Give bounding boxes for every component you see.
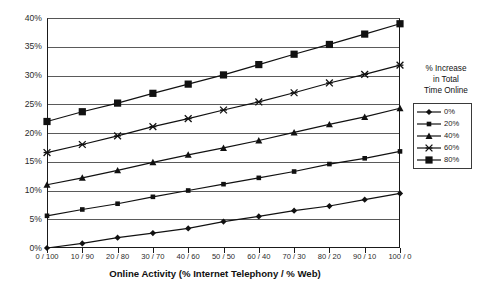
plot-frame (47, 18, 400, 248)
legend-label: 20% (442, 118, 459, 130)
legend-title-line: % Increase (409, 63, 483, 74)
legend-label: 80% (442, 154, 459, 166)
legend-entries: 0%20%40%60%80% (413, 103, 472, 169)
legend-swatch-square-large-icon (416, 154, 442, 166)
y-axis-tick-label: 35% (2, 42, 42, 51)
legend-item-60pct[interactable]: 60% (416, 142, 469, 154)
legend-title-line: in Total (409, 74, 483, 85)
legend-item-80pct[interactable]: 80% (416, 154, 469, 166)
legend-label: 0% (442, 106, 455, 118)
y-axis-tick-label: 25% (2, 100, 42, 109)
y-axis-tick-label: 10% (2, 186, 42, 195)
legend-swatch-cross-x-icon (416, 142, 442, 154)
y-axis-tick-label: 40% (2, 14, 42, 23)
legend-swatch-square-small-icon (416, 118, 442, 130)
legend: % Increasein TotalTime Online 0%20%40%60… (409, 63, 483, 169)
legend-swatch-triangle-icon (416, 130, 442, 142)
legend-item-20pct[interactable]: 20% (416, 118, 469, 130)
y-axis-tick-label: 15% (2, 157, 42, 166)
y-axis-tick-label: 30% (2, 71, 42, 80)
y-axis-tick-label: 5% (2, 215, 42, 224)
legend-title: % Increasein TotalTime Online (409, 63, 483, 96)
legend-item-40pct[interactable]: 40% (416, 130, 469, 142)
plot-area (47, 18, 400, 248)
legend-label: 40% (442, 130, 459, 142)
legend-title-line: Time Online (409, 85, 483, 96)
legend-item-0pct[interactable]: 0% (416, 106, 469, 118)
legend-swatch-diamond-icon (416, 106, 442, 118)
chart-container: 0%5%10%15%20%25%30%35%40% 0 / 10010 / 90… (0, 0, 485, 291)
y-axis-tick-label: 20% (2, 129, 42, 138)
y-axis-tick-label: 0% (2, 244, 42, 253)
x-axis-tick-label: 100 / 0 (370, 253, 430, 261)
x-axis-title: Online Activity (% Internet Telephony / … (0, 268, 430, 279)
legend-label: 60% (442, 142, 459, 154)
